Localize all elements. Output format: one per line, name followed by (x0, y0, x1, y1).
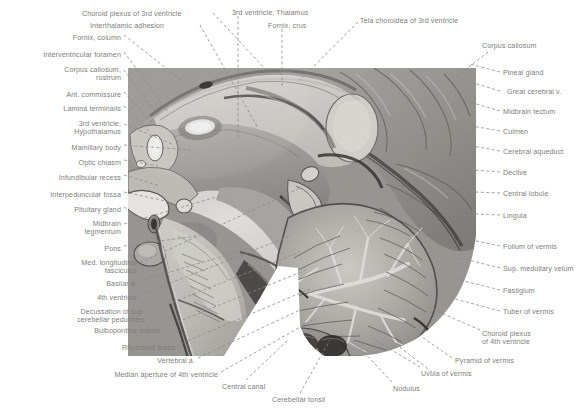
label-top-interthalamic-adhesion: Interthalamic adhesion (90, 22, 164, 30)
label-right-pyramid-of-vermis: Pyramid of vermis (455, 357, 514, 365)
label-bottom-central-canal: Central canal (222, 383, 265, 391)
label-left-pituitary-gland: Pituitary gland (74, 206, 121, 214)
label-top-fornix-crus: Fornix, crus (268, 22, 307, 30)
label-right-great-cerebral-v: Great cerebral v. (507, 88, 561, 96)
label-left-3rd-ventricle-hypothalamus: 3rd ventricle; Hypothalamus (74, 120, 121, 137)
label-left-bulbopontine-sulcus: Bulbopontine sulcus (94, 327, 160, 335)
label-left-med-longitudinal-fasciculus: Med. longitudinal fasciculus (81, 259, 137, 276)
label-left-interventricular-foramen: Interventricular foramen (43, 51, 121, 59)
label-top-3rd-ventricle-thalamus: 3rd ventricle; Thalamus (232, 9, 308, 17)
label-right-lingula: Lingula (503, 212, 527, 220)
label-bottom-nodulus: Nodulus (393, 385, 420, 393)
label-left-median-aperture-of-4th-ventricle: Median aperture of 4th ventricle (114, 371, 218, 379)
label-left-ant-commissure: Ant. commissure (66, 91, 121, 99)
anatomical-figure: Choroid plexus of 3rd ventricleInterthal… (0, 0, 587, 411)
label-left-corpus-callosum-rostrum: Corpus callosum, rostrum (64, 66, 121, 83)
label-left-mamillary-body: Mamillary body (72, 144, 121, 152)
label-right-corpus-callosum: Corpus callosum (482, 42, 537, 50)
label-top-choroid-plexus-of-3rd-ventricle: Choroid plexus of 3rd ventricle (82, 10, 182, 18)
label-left-midbrain-tegmentum: Midbrain tegmentum (84, 220, 121, 237)
label-left-lamina-terminalis: Lamina terminalis (63, 105, 121, 113)
brain-midsagittal-illustration (128, 68, 476, 358)
label-right-central-lobule: Central lobule (503, 190, 548, 198)
label-left-rhomboid-fossa: Rhomboid fossa (122, 344, 175, 352)
label-right-declive: Declive (503, 169, 527, 177)
label-left-4th-ventricle: 4th ventricle (97, 294, 137, 302)
label-left-decussation-of-sup-cerebellar-peduncles: Decussation of sup. cerebellar peduncles (77, 308, 145, 325)
label-right-sup-medullary-velum: Sup. medullary velum (503, 265, 574, 273)
label-left-pons: Pons (104, 245, 121, 253)
label-bottom-cerebellar-tonsil: Cerebellar tonsil (272, 396, 325, 404)
label-top-tela-choroidea-of-3rd-ventricle: Tela choroidea of 3rd ventricle (360, 17, 458, 25)
label-right-culmen: Culmen (503, 128, 528, 136)
label-right-folium-of-vermis: Folium of vermis (503, 243, 557, 251)
label-right-pineal-gland: Pineal gland (503, 69, 544, 77)
label-right-choroid-plexus-of-4th-ventricle: Choroid plexus of 4th ventricle (482, 330, 531, 347)
label-left-infundibular-recess: Infundibular recess (59, 174, 121, 182)
label-right-fastigium: Fastigium (503, 287, 535, 295)
label-right-midbrain-tectum: Midbrain tectum (503, 108, 555, 116)
label-left-optic-chiasm: Optic chiasm (79, 159, 121, 167)
label-left-fornix-column: Fornix, column (73, 34, 121, 42)
label-right-cerebral-aqueduct: Cerebral aqueduct (503, 148, 563, 156)
label-left-interpeduncular-fossa: Interpeduncular fossa (50, 191, 121, 199)
label-bottom-uvula-of-vermis: Uvula of vermis (421, 370, 472, 378)
label-left-basilar-a: Basilar a. (106, 280, 137, 288)
label-left-vertebral-a: Vertebral a. (157, 357, 195, 365)
label-right-tuber-of-vermis: Tuber of vermis (503, 308, 554, 316)
